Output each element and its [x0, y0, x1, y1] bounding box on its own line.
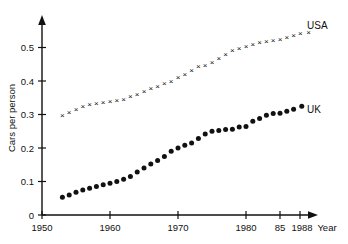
usa-data-point: × [244, 42, 249, 51]
uk-data-point [284, 109, 289, 114]
usa-data-point: × [169, 77, 174, 86]
usa-data-point: × [74, 105, 79, 114]
uk-data-point [108, 181, 113, 186]
usa-data-point: × [148, 84, 153, 93]
usa-data-point: × [291, 31, 296, 40]
usa-data-point: × [101, 98, 106, 107]
usa-data-point: × [67, 108, 72, 117]
usa-data-point: × [250, 40, 255, 49]
y-tick-label-0-1: 0.1 [21, 176, 34, 187]
usa-data-point: × [264, 37, 269, 46]
usa-data-point: × [216, 54, 221, 63]
uk-data-point [196, 136, 201, 141]
uk-data-point [189, 140, 194, 145]
x-tick-label-1950: 1950 [31, 222, 52, 233]
uk-data-point [169, 149, 174, 154]
uk-data-point [121, 177, 126, 182]
usa-series-points: ××××××××××××××××××××××××××××××××××××× [60, 28, 311, 121]
usa-data-point: × [189, 66, 194, 75]
uk-data-point [223, 127, 228, 132]
usa-data-point: × [142, 87, 147, 96]
usa-data-point: × [87, 100, 92, 109]
uk-data-point [182, 143, 187, 148]
uk-data-point [114, 179, 119, 184]
uk-data-point [101, 182, 106, 187]
usa-data-point: × [176, 73, 181, 82]
uk-data-point [142, 166, 147, 171]
usa-data-point: × [60, 111, 65, 120]
usa-data-point: × [121, 95, 126, 104]
uk-data-point [87, 186, 92, 191]
usa-data-point: × [257, 38, 262, 47]
y-tick-label-0-2: 0.2 [21, 143, 34, 154]
uk-series-label: UK [307, 104, 321, 115]
uk-data-point [128, 174, 133, 179]
x-tick-label-1980: 1980 [235, 222, 256, 233]
uk-data-point [278, 111, 283, 116]
usa-data-point: × [196, 62, 201, 71]
uk-data-point [155, 158, 160, 163]
usa-data-point: × [223, 50, 228, 59]
usa-data-point: × [203, 61, 208, 70]
x-tick-label-1970: 1970 [167, 222, 188, 233]
uk-data-point [74, 190, 79, 195]
uk-data-point [94, 184, 99, 189]
usa-data-point: × [128, 92, 133, 101]
uk-data-point [216, 128, 221, 133]
y-tick-label-0-5: 0.5 [21, 42, 34, 53]
x-axis-arrowhead [308, 211, 318, 219]
uk-data-point [299, 104, 304, 109]
uk-data-point [271, 111, 276, 116]
uk-data-point [244, 124, 249, 129]
uk-data-point [210, 129, 215, 134]
usa-data-point: × [237, 44, 242, 53]
usa-data-point: × [298, 29, 303, 38]
y-axis-arrowhead [38, 15, 46, 25]
chart-container: 0 0.1 0.2 0.3 0.4 0.5 1950 1960 1970 198… [0, 0, 348, 244]
uk-data-point [60, 195, 65, 200]
uk-data-point [237, 124, 242, 129]
y-axis-title: Cars per person [6, 84, 17, 152]
uk-data-point [176, 146, 181, 151]
uk-data-point [230, 127, 235, 132]
usa-data-point: × [278, 35, 283, 44]
uk-data-point [148, 162, 153, 167]
x-axis [42, 211, 318, 219]
uk-data-point [80, 187, 85, 192]
uk-data-point [203, 131, 208, 136]
uk-data-point [291, 107, 296, 112]
usa-data-point: × [210, 58, 215, 67]
usa-data-point: × [108, 97, 113, 106]
x-axis-title: Year [317, 222, 336, 233]
x-tick-label-1960: 1960 [99, 222, 120, 233]
uk-data-point [264, 113, 269, 118]
uk-series-points [60, 104, 304, 200]
y-tick-label-0-3: 0.3 [21, 109, 34, 120]
y-tick-label-0: 0 [29, 210, 34, 221]
usa-data-point: × [80, 102, 85, 111]
uk-data-point [250, 119, 255, 124]
usa-data-point: × [114, 96, 119, 105]
x-tick-label-1985: 85 [275, 222, 286, 233]
usa-data-point: × [271, 36, 276, 45]
y-tick-label-0-4: 0.4 [21, 76, 34, 87]
uk-data-point [67, 192, 72, 197]
usa-data-point: × [230, 46, 235, 55]
uk-data-point [257, 116, 262, 121]
x-tick-label-1988: 1988 [291, 222, 312, 233]
usa-data-point: × [162, 79, 167, 88]
cars-per-person-scatter-chart: 0 0.1 0.2 0.3 0.4 0.5 1950 1960 1970 198… [0, 0, 348, 244]
usa-data-point: × [182, 70, 187, 79]
usa-data-point: × [284, 33, 289, 42]
usa-data-point: × [94, 99, 99, 108]
uk-data-point [162, 154, 167, 159]
usa-data-point: × [155, 82, 160, 91]
usa-data-point: × [135, 90, 140, 99]
usa-series-label: USA [307, 20, 328, 31]
uk-data-point [135, 170, 140, 175]
